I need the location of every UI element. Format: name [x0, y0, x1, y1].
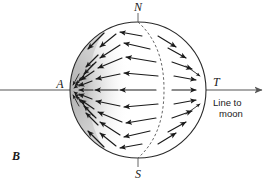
antipode-point-label: T [213, 75, 221, 89]
sublunar-point-label: A [55, 77, 64, 91]
tidal-vectors-far-hemisphere [158, 36, 200, 144]
north-pole-label: N [133, 0, 143, 14]
tidal-force-figure: N S A T Line to moon B [0, 0, 273, 182]
panel-label: B [11, 149, 20, 163]
south-pole-label: S [135, 167, 141, 181]
line-to-moon-caption-line2: moon [219, 108, 243, 119]
tidal-diagram-canvas: N S A T Line to moon B [0, 0, 273, 182]
line-to-moon-caption-line1: Line to [213, 97, 242, 108]
